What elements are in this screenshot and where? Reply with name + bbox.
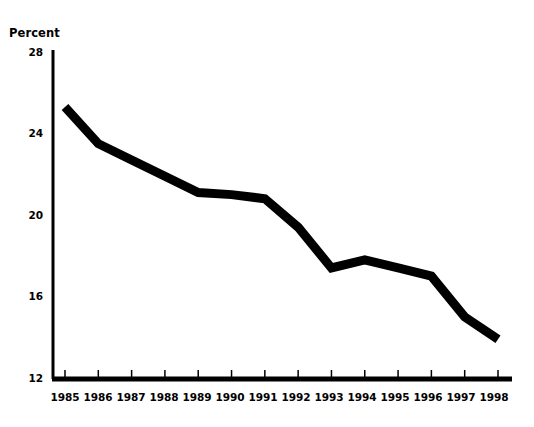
data-series-line <box>65 107 498 339</box>
line-chart: Percent 28 24 20 16 12 1985 1986 1987 19… <box>0 0 534 427</box>
plot-area <box>0 0 534 427</box>
